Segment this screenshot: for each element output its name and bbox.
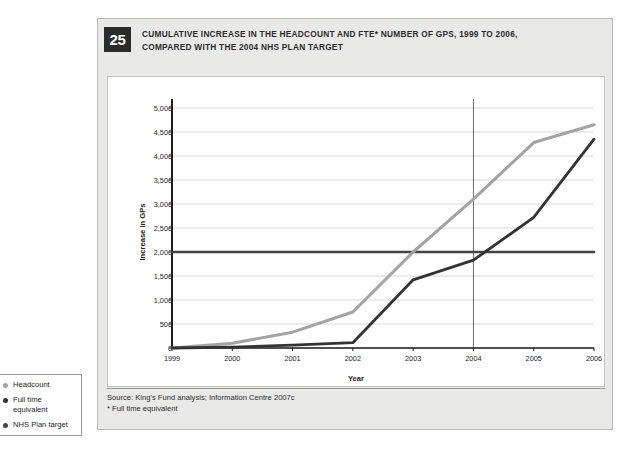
figure-number-badge: 25	[104, 27, 131, 52]
legend-item: Full time equivalent	[3, 395, 68, 415]
legend-item-label: Headcount	[13, 380, 50, 390]
source-line-2: * Full time equivalent	[107, 403, 605, 414]
figure-title: CUMULATIVE INCREASE IN THE HEADCOUNT AND…	[142, 28, 518, 53]
series-line-headcount	[172, 125, 594, 348]
legend-swatch-icon	[3, 423, 8, 428]
legend-item-list: HeadcountFull time equivalentNHS Plan ta…	[3, 380, 68, 435]
legend-item: Headcount	[3, 380, 68, 390]
legend-item: NHS Plan target	[3, 420, 68, 430]
figure-title-line-2: COMPARED WITH THE 2004 NHS PLAN TARGET	[142, 41, 518, 54]
legend-item-label: NHS Plan target	[13, 420, 68, 430]
chart-legend: HeadcountFull time equivalentNHS Plan ta…	[0, 374, 82, 436]
source-line-1: Source: King's Fund analysis; Informatio…	[107, 392, 605, 403]
figure-screenshot: 25 CUMULATIVE INCREASE IN THE HEADCOUNT …	[0, 0, 629, 453]
legend-item-label: Full time equivalent	[13, 395, 48, 415]
legend-swatch-icon	[3, 383, 8, 388]
figure-header: 25 CUMULATIVE INCREASE IN THE HEADCOUNT …	[98, 19, 612, 72]
chart-plot-inner: Increase in GPs Year 05001,0001,5002,000…	[108, 77, 604, 386]
source-divider	[107, 388, 605, 389]
chart-canvas	[108, 77, 606, 388]
series-line-fte	[172, 139, 594, 348]
figure-title-line-1: CUMULATIVE INCREASE IN THE HEADCOUNT AND…	[142, 28, 518, 41]
chart-plot-card: Increase in GPs Year 05001,0001,5002,000…	[107, 76, 605, 387]
legend-swatch-icon	[3, 398, 8, 403]
figure-source-note: Source: King's Fund analysis; Informatio…	[107, 392, 605, 414]
figure-panel: 25 CUMULATIVE INCREASE IN THE HEADCOUNT …	[97, 18, 613, 430]
